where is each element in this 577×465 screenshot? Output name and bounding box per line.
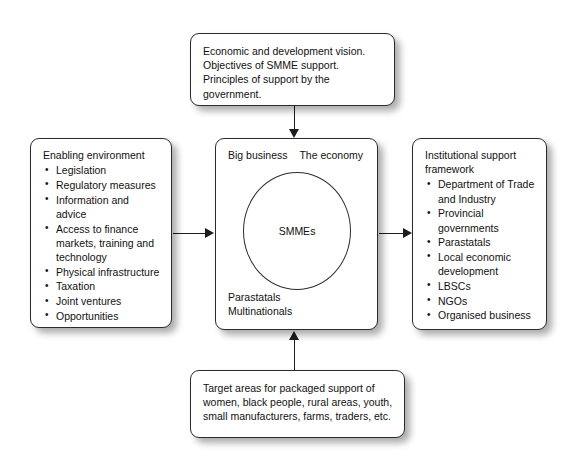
list-item: Provincial governments <box>425 206 535 234</box>
node-enabling-environment-heading: Enabling environment <box>43 148 160 162</box>
arrowhead-right-into-center <box>205 228 214 238</box>
label-multinationals: Multinationals <box>228 304 292 318</box>
connector-line-vertical-bottom <box>294 340 295 370</box>
label-parastatals: Parastatals <box>228 290 292 304</box>
list-item: Physical infrastructure <box>43 265 160 279</box>
list-item: NGOs <box>425 294 535 308</box>
node-vision-objectives: Economic and development vision. Objecti… <box>190 33 395 106</box>
label-smmes: SMMEs <box>279 224 316 238</box>
list-item: Parastatals <box>425 235 535 249</box>
economy-bottom-labels: Parastatals Multinationals <box>228 290 292 318</box>
connector-line-horizontal-left <box>173 233 206 234</box>
list-item: Local economic development <box>425 250 535 278</box>
arrowhead-down-into-center <box>289 129 299 138</box>
list-item: Organised business <box>425 308 535 322</box>
smmes-ellipse: SMMEs <box>243 172 351 290</box>
list-item: Department of Trade and Industry <box>425 177 535 205</box>
list-item: LBSCs <box>425 279 535 293</box>
node-economy: Big business The economy SMMEs Parastata… <box>215 138 378 330</box>
label-big-business: Big business <box>228 148 288 162</box>
economy-top-labels: Big business The economy <box>226 148 367 162</box>
list-item: Information and advice <box>43 193 160 221</box>
list-item: Opportunities <box>43 309 160 323</box>
node-target-areas: Target areas for packaged support of wom… <box>190 370 405 438</box>
enabling-environment-list: Legislation Regulatory measures Informat… <box>43 163 160 323</box>
diagram-canvas: Economic and development vision. Objecti… <box>0 0 577 465</box>
node-vision-text: Economic and development vision. Objecti… <box>203 44 383 101</box>
node-target-areas-text: Target areas for packaged support of wom… <box>203 381 393 424</box>
list-item: Access to finance markets, training and … <box>43 222 160 265</box>
connector-line-vertical-top <box>294 106 295 132</box>
node-institutional-support: Institutional support framework Departme… <box>412 138 547 330</box>
list-item: Joint ventures <box>43 294 160 308</box>
list-item: Legislation <box>43 163 160 177</box>
label-the-economy: The economy <box>299 148 363 162</box>
node-enabling-environment: Enabling environment Legislation Regulat… <box>30 138 172 328</box>
institutional-support-list: Department of Trade and Industry Provinc… <box>425 177 535 322</box>
arrowhead-right-into-institutional <box>403 228 412 238</box>
node-institutional-support-heading: Institutional support framework <box>425 148 535 176</box>
list-item: Taxation <box>43 279 160 293</box>
list-item: Regulatory measures <box>43 178 160 192</box>
arrowhead-up-into-center <box>289 331 299 340</box>
connector-line-horizontal-right <box>379 233 404 234</box>
